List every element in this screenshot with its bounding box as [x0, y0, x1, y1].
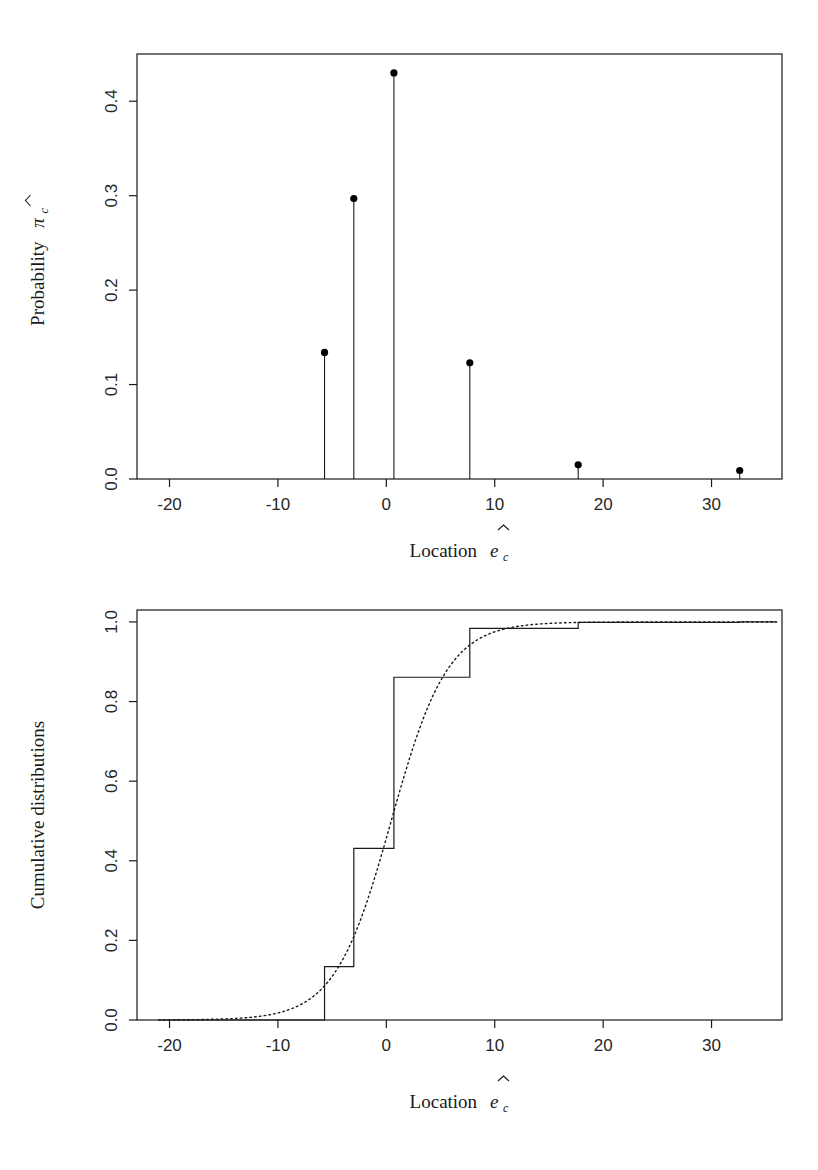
- top-ylabel-text: Probability: [27, 241, 48, 326]
- bottom-y-axis-title: Cumulative distributions: [27, 721, 48, 909]
- y-tick-label: 0.2: [102, 929, 121, 953]
- bottom-ylabel-text: Cumulative distributions: [27, 721, 48, 909]
- hat-accent-icon: [498, 1076, 509, 1081]
- top-y-axis-ticks: 0.00.10.20.30.4: [102, 89, 137, 490]
- svg-text:Location e: Location e c: [410, 1091, 509, 1115]
- y-tick-label: 0.3: [102, 184, 121, 208]
- x-tick-label: -20: [157, 1036, 182, 1055]
- stem-point-marker: [736, 467, 743, 474]
- x-tick-label: 0: [382, 495, 391, 514]
- y-tick-label: 0.0: [102, 467, 121, 491]
- x-tick-label: 30: [702, 495, 721, 514]
- top-panel-probability-stem-plot: -20-100102030 0.00.10.20.30.4 Location e…: [0, 0, 818, 585]
- bottom-xlabel-symbol: e: [490, 1091, 498, 1112]
- x-tick-label: -20: [157, 495, 182, 514]
- bottom-xlabel-subscript: c: [503, 1101, 509, 1115]
- y-tick-label: 0.6: [102, 769, 121, 793]
- hat-accent-icon: [26, 195, 31, 206]
- bottom-panel-svg: -20-100102030 0.00.20.40.60.81.0 Locatio…: [0, 585, 818, 1170]
- x-tick-label: -10: [266, 1036, 291, 1055]
- top-xlabel-subscript: c: [503, 550, 509, 564]
- y-tick-label: 0.8: [102, 690, 121, 714]
- stem-series: [321, 69, 743, 479]
- figure-canvas: -20-100102030 0.00.10.20.30.4 Location e…: [0, 0, 818, 1170]
- x-tick-label: 10: [485, 1036, 504, 1055]
- bottom-panel-cumulative-distribution-plot: -20-100102030 0.00.20.40.60.81.0 Locatio…: [0, 585, 818, 1170]
- top-x-axis-title: Location e c: [410, 525, 509, 564]
- x-tick-label: 30: [702, 1036, 721, 1055]
- bottom-x-axis-ticks: -20-100102030: [157, 1020, 721, 1055]
- bottom-plot-frame: [137, 610, 782, 1020]
- y-tick-label: 0.1: [102, 373, 121, 397]
- bottom-x-axis-title: Location e c: [410, 1076, 509, 1115]
- x-tick-label: 10: [485, 495, 504, 514]
- y-tick-label: 0.0: [102, 1008, 121, 1032]
- y-tick-label: 0.2: [102, 278, 121, 302]
- y-tick-label: 0.4: [102, 89, 121, 113]
- x-tick-label: -10: [266, 495, 291, 514]
- top-y-axis-title: Probability π c: [26, 195, 52, 326]
- y-tick-label: 0.4: [102, 849, 121, 873]
- stem-point-marker: [321, 349, 328, 356]
- hat-accent-icon: [498, 525, 509, 530]
- top-xlabel-symbol: e: [490, 540, 498, 561]
- stem-point-marker: [575, 461, 582, 468]
- bottom-xlabel-text: Location: [410, 1091, 478, 1112]
- stem-point-marker: [350, 195, 357, 202]
- svg-text:Location e: Location e c: [410, 540, 509, 564]
- top-x-axis-ticks: -20-100102030: [157, 479, 721, 514]
- x-tick-label: 0: [382, 1036, 391, 1055]
- x-tick-label: 20: [594, 495, 613, 514]
- top-ylabel-symbol: π: [27, 218, 48, 228]
- fitted-smooth-cdf-line: [159, 622, 777, 1020]
- stem-point-marker: [390, 69, 397, 76]
- empirical-step-cdf-line: [159, 622, 777, 1020]
- bottom-y-axis-ticks: 0.00.20.40.60.81.0: [102, 610, 137, 1032]
- svg-text:Probability π: Probability π c: [27, 207, 51, 325]
- stem-point-marker: [466, 359, 473, 366]
- top-ylabel-subscript: c: [37, 207, 51, 213]
- top-panel-svg: -20-100102030 0.00.10.20.30.4 Location e…: [0, 0, 818, 585]
- top-plot-frame: [137, 54, 782, 479]
- y-tick-label: 1.0: [102, 610, 121, 634]
- top-xlabel-text: Location: [410, 540, 478, 561]
- x-tick-label: 20: [594, 1036, 613, 1055]
